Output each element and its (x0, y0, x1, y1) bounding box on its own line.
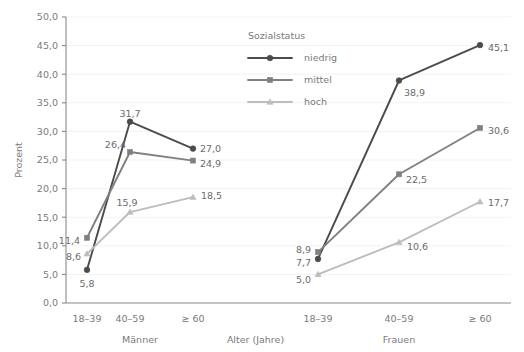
data-point-label: 27,0 (200, 143, 221, 154)
data-point-mittel (127, 149, 132, 154)
x-axis-category-label: 40–59 (116, 313, 145, 324)
data-point-label: 15,9 (116, 197, 137, 208)
data-point-label: 5,0 (296, 274, 311, 285)
data-point-mittel (477, 125, 482, 130)
data-point-niedrig (127, 119, 133, 125)
x-axis-title: Alter (Jahre) (227, 334, 284, 345)
data-point-niedrig (477, 42, 483, 48)
data-point-niedrig (315, 256, 321, 262)
data-point-label: 30,6 (488, 125, 509, 136)
legend-label-mittel: mittel (304, 74, 332, 85)
y-axis-title: Prozent (13, 142, 24, 178)
data-point-label: 5,8 (79, 278, 94, 289)
data-point-label: 22,5 (406, 174, 427, 185)
legend-label-hoch: hoch (304, 96, 327, 107)
x-axis-group-labels: MännerFrauenAlter (Jahre) (122, 334, 415, 345)
x-axis-category-labels: 18–3940–59≥ 6018–3940–59≥ 60 (73, 313, 492, 324)
legend-label-niedrig: niedrig (304, 52, 337, 63)
series-line-niedrig (87, 122, 193, 270)
y-axis-tick-label: 35,0 (37, 97, 58, 108)
y-axis-tick-label: 25,0 (37, 154, 58, 165)
series-mittel (84, 125, 482, 254)
data-point-label: 31,7 (119, 108, 140, 119)
x-axis-category-label: ≥ 60 (468, 313, 491, 324)
data-point-label: 45,1 (488, 42, 509, 53)
legend-item-niedrig[interactable]: niedrig (248, 52, 337, 63)
grid-lines (66, 17, 511, 274)
data-point-niedrig (396, 78, 402, 84)
x-axis-category-label: ≥ 60 (181, 313, 204, 324)
y-axis-tick-label: 5,0 (43, 269, 58, 280)
legend-item-hoch[interactable]: hoch (248, 96, 327, 107)
legend-item-mittel[interactable]: mittel (248, 74, 332, 85)
y-axis-tick-label: 20,0 (37, 183, 58, 194)
x-axis-group-label-frauen: Frauen (383, 334, 415, 345)
data-point-niedrig (84, 267, 90, 273)
series-niedrig (84, 42, 483, 272)
data-point-label: 24,9 (200, 158, 221, 169)
y-axis: 0,05,010,015,020,025,030,035,040,045,050… (37, 11, 66, 308)
y-axis-tick-label: 10,0 (37, 240, 58, 251)
data-point-label: 17,7 (488, 197, 509, 208)
series-hoch (84, 194, 483, 277)
y-axis-title-group: Prozent (13, 142, 24, 178)
data-point-mittel (190, 158, 195, 163)
data-point-label: 26,4 (105, 139, 126, 150)
series-line-mittel (318, 128, 480, 252)
line-chart: 0,05,010,015,020,025,030,035,040,045,050… (0, 0, 524, 352)
data-point-label: 18,5 (201, 190, 222, 201)
y-axis-tick-label: 0,0 (43, 297, 58, 308)
data-point-label: 7,7 (296, 257, 311, 268)
y-axis-tick-label: 40,0 (37, 69, 58, 80)
data-point-label: 10,6 (407, 241, 428, 252)
y-axis-tick-label: 30,0 (37, 126, 58, 137)
y-axis-tick-label: 50,0 (37, 11, 58, 22)
x-axis-category-label: 18–39 (73, 313, 102, 324)
data-point-label: 11,4 (59, 235, 80, 246)
legend-marker-mittel (267, 77, 272, 82)
data-point-niedrig (190, 146, 196, 152)
legend: Sozialstatusniedrigmittelhoch (248, 30, 337, 107)
data-point-hoch (477, 199, 483, 204)
x-axis-category-label: 18–39 (304, 313, 333, 324)
data-point-label: 8,9 (296, 244, 311, 255)
chart-container: 0,05,010,015,020,025,030,035,040,045,050… (0, 0, 524, 352)
x-axis-category-label: 40–59 (385, 313, 414, 324)
data-point-mittel (315, 250, 320, 255)
series-line-niedrig (318, 45, 480, 259)
data-point-mittel (84, 235, 89, 240)
data-point-mittel (396, 172, 401, 177)
y-axis-tick-label: 15,0 (37, 212, 58, 223)
x-axis-group-label-maenner: Männer (122, 334, 158, 345)
series-line-mittel (87, 152, 193, 238)
legend-title: Sozialstatus (248, 30, 305, 41)
data-point-label: 38,9 (404, 87, 425, 98)
legend-marker-niedrig (267, 55, 273, 61)
y-axis-tick-label: 45,0 (37, 40, 58, 51)
series-line-hoch (318, 202, 480, 275)
data-point-label: 8,6 (66, 251, 81, 262)
